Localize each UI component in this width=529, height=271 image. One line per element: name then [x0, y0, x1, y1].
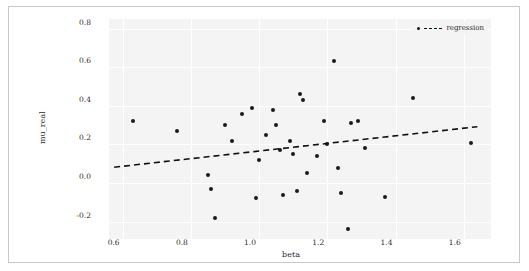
figure-border: regression 0.80.60.40.20.0-0.2 0.60.81.0… — [8, 6, 520, 263]
plot-area: regression — [109, 19, 491, 239]
legend: regression — [413, 22, 488, 34]
y-tick-label: 0.6 — [9, 56, 91, 65]
regression-line — [109, 19, 491, 239]
x-tick-label: 1.6 — [449, 238, 461, 247]
legend-dashed-line-icon — [424, 28, 442, 29]
x-tick-label: 1.4 — [381, 238, 393, 247]
x-tick-label: 1.2 — [312, 238, 324, 247]
figure-canvas: regression 0.80.60.40.20.0-0.2 0.60.81.0… — [0, 0, 529, 271]
x-tick-label: 1.0 — [244, 238, 256, 247]
y-axis-title: mu_real — [38, 111, 47, 144]
y-tick-label: 0.8 — [9, 17, 91, 26]
legend-label-regression: regression — [446, 24, 484, 32]
legend-marker-icon — [417, 27, 420, 30]
x-tick-label: 0.8 — [176, 238, 188, 247]
y-tick-label: 0.2 — [9, 133, 91, 142]
y-tick-label: 0.0 — [9, 172, 91, 181]
x-axis-title: beta — [100, 250, 482, 259]
y-tick-label: -0.2 — [9, 210, 91, 219]
y-tick-label: 0.4 — [9, 94, 91, 103]
x-tick-label: 0.6 — [108, 238, 120, 247]
